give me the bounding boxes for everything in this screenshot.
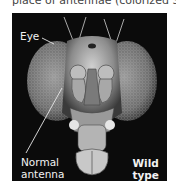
normal-antenna-label-line1: Normal	[21, 156, 64, 168]
wild-type-label: Wild type	[132, 157, 159, 181]
eye-label: Eye	[20, 30, 39, 42]
sem-image-panel: Eye Normal antenna Wild type	[12, 13, 167, 181]
wild-type-label-line2: type	[132, 169, 159, 181]
wild-type-label-line1: Wild	[132, 157, 159, 169]
normal-antenna-label-line2: antenna	[21, 168, 64, 180]
figure-caption: place of antennae (colorized SEMs)	[12, 0, 176, 7]
normal-antenna-label: Normal antenna	[21, 156, 64, 180]
